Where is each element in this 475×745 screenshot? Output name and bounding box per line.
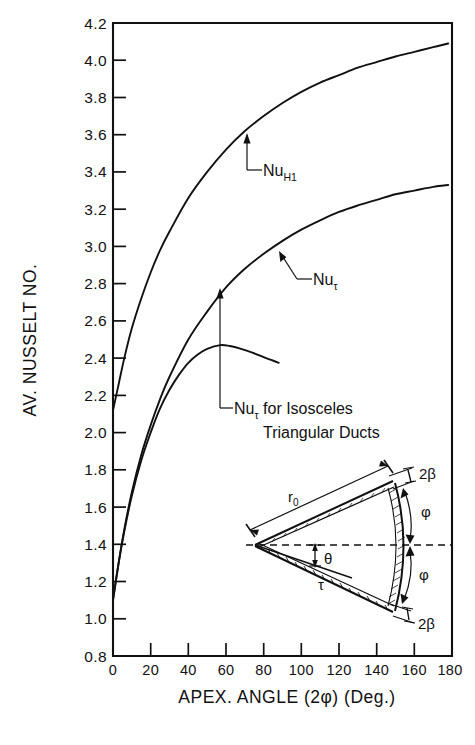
- curve-nu-h1: [113, 43, 448, 410]
- y-tick-label: 1.4: [84, 536, 107, 553]
- plot-frame: [113, 23, 452, 656]
- x-axis-ticks: [113, 643, 452, 656]
- phi-top-arrowhead-upper: [401, 488, 409, 499]
- chart-svg: 0.8 1.0 1.2 1.4 1.6 1.8 2.0 2.2 2.4 2.6 …: [0, 0, 475, 745]
- y-tick-label: 3.0: [84, 238, 107, 255]
- phi-top-arrow-line: [405, 492, 411, 539]
- beta-top-label: 2β: [419, 465, 436, 482]
- theta-label: θ: [324, 550, 332, 567]
- phi-bottom-arrow-line: [404, 551, 411, 600]
- wedge-duct-diagram: r0 2β 2β φ φ θ τ: [246, 460, 452, 632]
- nu-h1-arrowhead: [243, 133, 250, 144]
- beta-top-bracket: [408, 470, 411, 482]
- y-tick-label: 3.2: [84, 201, 107, 218]
- nu-tau-iso-label-line1: Nuτ for Isosceles: [234, 400, 353, 421]
- nu-tau-isosceles-annotation: Nuτ for Isosceles Triangular Ducts: [216, 288, 379, 441]
- beta-bottom-label: 2β: [418, 615, 435, 632]
- y-tick-label: 1.0: [84, 610, 107, 627]
- y-axis-tick-labels: 0.8 1.0 1.2 1.4 1.6 1.8 2.0 2.2 2.4 2.6 …: [84, 15, 107, 665]
- phi-top-arrowhead-lower: [406, 535, 415, 545]
- x-tick-label: 140: [364, 662, 389, 678]
- phi-bottom-arrowhead-upper: [406, 546, 415, 557]
- y-tick-label: 3.6: [84, 126, 107, 143]
- x-tick-label: 60: [218, 662, 235, 678]
- data-curves: [113, 43, 448, 600]
- nu-h1-label: NuH1: [263, 162, 297, 183]
- y-tick-label: 1.6: [84, 499, 107, 516]
- x-tick-label: 40: [180, 662, 197, 678]
- y-tick-label: 2.6: [84, 312, 107, 329]
- x-axis-tick-labels: 0 20 40 60 80 100 120 140 160 180: [109, 662, 463, 678]
- axis-box: [113, 23, 452, 656]
- curve-nu-tau-isosceles: [113, 345, 279, 600]
- x-tick-label: 100: [289, 662, 314, 678]
- nu-h1-annotation: NuH1: [243, 133, 297, 183]
- y-tick-label: 0.8: [84, 648, 107, 665]
- y-tick-label: 2.2: [84, 387, 107, 404]
- theta-arrowhead-upper: [312, 543, 318, 551]
- nu-tau-annotation: Nuτ: [279, 251, 338, 292]
- y-tick-label: 4.2: [84, 15, 107, 32]
- tau-ray: [255, 545, 352, 578]
- x-tick-label: 120: [326, 662, 351, 678]
- y-tick-label: 1.8: [84, 461, 107, 478]
- nu-tau-iso-arrowhead: [216, 288, 223, 299]
- nu-tau-label: Nuτ: [313, 271, 338, 292]
- y-axis-title: AV. NUSSELT NO.: [20, 264, 40, 417]
- y-tick-label: 2.4: [84, 350, 107, 367]
- phi-bottom-arrowhead-lower: [401, 594, 409, 605]
- phi-bottom-label: φ: [419, 566, 429, 583]
- r0-label: r0: [288, 488, 299, 508]
- nu-tau-iso-label-line2: Triangular Ducts: [263, 424, 380, 441]
- x-tick-label: 80: [255, 662, 272, 678]
- y-tick-label: 3.8: [84, 89, 107, 106]
- x-tick-label: 0: [109, 662, 117, 678]
- x-axis-title: APEX. ANGLE (2φ) (Deg.): [178, 687, 395, 707]
- y-tick-label: 2.0: [84, 424, 107, 441]
- figure-container: 0.8 1.0 1.2 1.4 1.6 1.8 2.0 2.2 2.4 2.6 …: [0, 0, 475, 745]
- y-tick-label: 3.4: [84, 163, 107, 180]
- r0-dimension-tick-right: [384, 460, 393, 473]
- wedge-upper-wall-outer: [255, 481, 393, 545]
- y-tick-label: 2.8: [84, 275, 107, 292]
- tau-label: τ: [318, 576, 324, 593]
- y-tick-label: 1.2: [84, 573, 107, 590]
- y-tick-label: 4.0: [84, 52, 107, 69]
- x-tick-label: 180: [437, 662, 462, 678]
- x-tick-label: 20: [142, 662, 159, 678]
- phi-top-label: φ: [421, 503, 431, 520]
- x-tick-label: 160: [402, 662, 427, 678]
